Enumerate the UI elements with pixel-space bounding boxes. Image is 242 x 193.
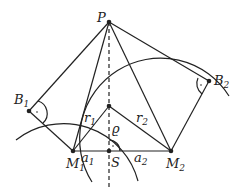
- geometry-diagram: P B1 B2 M1 S M2 r1 r2 ϱ a1 a2: [0, 0, 242, 193]
- label-r1: r1: [84, 110, 96, 127]
- label-b1: B1: [13, 92, 29, 109]
- right-angle-dot-b1: [36, 111, 38, 113]
- circle-arc-m1: [16, 124, 138, 181]
- label-rho: ϱ: [112, 121, 120, 136]
- label-s: S: [111, 155, 120, 170]
- right-angle-b2: [197, 78, 202, 94]
- point-m1: [71, 149, 76, 154]
- point-b2: [207, 79, 212, 84]
- point-s: [107, 149, 112, 154]
- label-a2: a2: [134, 150, 148, 167]
- point-m2: [169, 149, 174, 154]
- right-angle-s: [109, 140, 120, 151]
- radius-b1-m1: [29, 111, 73, 151]
- point-b1: [27, 109, 32, 114]
- label-r2: r2: [136, 110, 148, 127]
- label-b2: B2: [213, 73, 230, 90]
- right-angle-dot-b2: [200, 84, 202, 86]
- tangent-p-b2: [109, 22, 209, 81]
- circle-arc-m2: [80, 58, 229, 182]
- label-m2: M2: [165, 156, 185, 173]
- radius-r1: [73, 106, 109, 151]
- label-a1: a1: [81, 150, 95, 167]
- right-angle-dot-s: [112, 145, 114, 147]
- point-p: [107, 20, 112, 25]
- radius-b2-m2: [171, 81, 209, 151]
- label-p: P: [96, 10, 106, 25]
- point-intersection: [107, 104, 112, 109]
